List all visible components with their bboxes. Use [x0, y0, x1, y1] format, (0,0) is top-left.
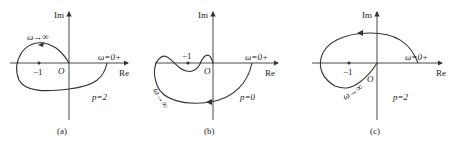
- re-label: Re: [265, 68, 275, 78]
- nyquist-figure: Im Re O −1 ω→∞ ω=0+ p=2 (a) Im Re O −1 ω…: [0, 0, 458, 150]
- caption: (a): [57, 126, 67, 136]
- nyquist-curve: [154, 55, 252, 103]
- pole-label: p=0: [239, 92, 256, 102]
- pole-label: p=2: [392, 92, 409, 102]
- panel-b: Im Re O −1 ω=0+ p=0 ω→∞ (b): [151, 10, 278, 136]
- start-label: ω=0+: [245, 52, 268, 62]
- critical-point-label: −1: [33, 67, 43, 77]
- re-label: Re: [119, 68, 129, 78]
- critical-point-label: −1: [343, 67, 353, 77]
- critical-point: [38, 62, 41, 65]
- start-label: ω=0+: [98, 52, 121, 62]
- im-label: Im: [362, 10, 372, 20]
- start-label: ω=0+: [405, 52, 428, 62]
- caption: (c): [370, 126, 380, 136]
- direction-arrow: [357, 30, 363, 36]
- im-label: Im: [198, 10, 208, 20]
- critical-point: [348, 62, 351, 65]
- critical-point: [187, 62, 190, 65]
- pole-label: p=2: [91, 92, 108, 102]
- im-label: Im: [54, 10, 64, 20]
- re-label: Re: [436, 68, 446, 78]
- caption: (b): [204, 126, 215, 136]
- direction-arrow: [206, 99, 212, 105]
- end-label: ω→∞: [151, 86, 171, 110]
- origin-label: O: [58, 66, 65, 76]
- critical-point-label: −1: [182, 51, 192, 61]
- panel-c: Im Re O −1 ω=0+ ω→∞ p=2 (c): [312, 10, 446, 136]
- end-label: ω→∞: [341, 82, 365, 102]
- origin-label: O: [204, 66, 211, 76]
- panel-a: Im Re O −1 ω→∞ ω=0+ p=2 (a): [10, 10, 129, 136]
- end-label: ω→∞: [27, 32, 49, 42]
